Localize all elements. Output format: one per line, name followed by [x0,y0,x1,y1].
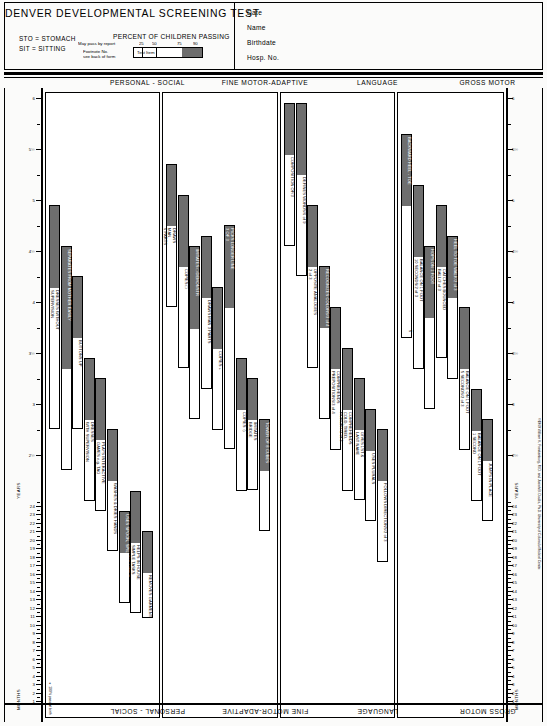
chart-item[interactable]: RECOGNIZES COLORS/3 of 4 [319,266,330,419]
axis-label-month-16: 16 [15,572,35,577]
item-bar-fill-75-90 [355,379,364,430]
axis-tick-minor [508,510,511,511]
axis-unit-months: MONTHS [16,689,21,710]
axis-label-year-3½: 3½ [512,351,532,356]
chart-item[interactable]: COMPOSITION OF/387% [284,103,295,246]
chart-item[interactable]: PLAYS INTERACTIVE GAMES e.g. TAG [95,378,106,511]
axis-label-month-13: 13 [512,597,532,602]
axis-tick-minor [37,655,40,656]
chart-item[interactable]: HELPS IN HOUSE SIMPLE TASKS [130,491,141,613]
chart-item[interactable]: HOPS ON 1 FOOT [424,246,435,409]
chart-item[interactable]: DEFINES WORDS/6 of 987% [296,103,307,276]
item-label: COPIES □ [183,269,187,288]
item-bar: BALANCE ON 1 FOOT 10 SECONDS/2 of 3 [413,185,424,369]
item-label: RECOGNIZES COLORS/3 of 4 [324,269,328,327]
header-divider-thick [4,72,543,75]
item-label: BALANCE ON 1 FOOT 5 SECONDS/2 of 3 [460,371,469,414]
chart-item[interactable]: USES SPOON, SPILLING LITTLE [119,511,130,603]
axis-label-month-20: 20 [15,538,35,543]
item-bar-fill-75-90 [414,186,423,257]
item-bar: FOLLOWS DIRECTIONS/2 of 3 [377,429,388,562]
header-right-fields: Date Name Birthdate Hosp. No. [237,3,542,69]
item-bar-fill-75-90 [460,308,469,369]
axis-tick-minor [508,621,511,622]
item-bar-fill-75-90 [483,420,492,461]
item-bar-fill-75-90 [143,532,152,573]
item-bar: COMPREHENDS COLD, TIRED, HUNGRY/2 of 3 [342,348,353,491]
axis-tick-minor [37,578,40,579]
chart-item[interactable]: WASHES & DRIES HANDS [107,429,118,551]
item-bar: COPIES □ [178,195,189,368]
chart-item[interactable]: HEEL TO TOE WALK/2 of 3 [447,236,458,379]
chart-item[interactable]: PICKS LONGER LINE 3 OF 3 [224,225,235,449]
panel-language: COMPOSITION OF/387%DEFINES WORDS/6 of 98… [280,92,395,718]
item-label: SEPARATES FROM MOTHER EASILY [66,249,70,321]
axis-tick-minor [508,561,511,562]
axis-tick [36,608,41,609]
field-hosp-no[interactable]: Hosp. No. [247,54,279,61]
chart-item[interactable]: BALANCE ON 1 FOOT 1 SECOND [471,389,482,501]
item-label: FOLLOWS DIRECTIONS/2 of 3 [382,483,386,542]
chart-item[interactable]: COMPREHENDS COLD, TIRED, HUNGRY/2 of 3 [342,348,353,491]
axis-tick-minor [508,612,511,613]
chart-item[interactable]: COPIES ◇ [236,358,247,491]
axis-label-month-12: 12 [15,606,35,611]
chart-item[interactable]: IMITATES BRIDGE [247,378,258,490]
chart-item[interactable]: FOLLOWS DIRECTIONS/2 of 3 [377,429,388,562]
chart-item[interactable]: CATCHES BOUNCED BALL/2 of 3 [436,205,447,358]
item-bar: COMPOSITION OF/3 [284,103,295,246]
axis-tick-minor [508,430,511,431]
bottom-label-gross-motor: GROSS MOTOR [400,708,547,715]
item-label: CATCHES BOUNCED BALL/2 of 3 [436,269,445,310]
axis-label-month-9: 9 [512,631,532,636]
chart-item[interactable]: GIVES 1ST & LAST NAME [354,378,365,500]
chart-item[interactable]: DRAWS MAN 3 PARTS [201,236,212,389]
axis-tick-minor [37,638,40,639]
item-bar: DRAWS MAN 6 PARTS [166,164,177,307]
abbrev-sitting: SIT = SITTING [19,45,66,52]
field-birthdate[interactable]: Birthdate [247,39,276,46]
item-bar-fill-75-90 [297,104,306,175]
field-date[interactable]: Date [247,9,262,16]
axis-label-month-10: 10 [512,623,532,628]
chart-item[interactable]: TOWER OF 8 CUBES [259,419,270,531]
axis-tick [36,404,41,405]
legend-test-item-label: Test Item [137,50,154,55]
chart-item[interactable]: REMOVES GARMENT [142,531,153,618]
field-name[interactable]: Name [247,24,266,31]
item-bar-fill-75-90 [73,277,82,338]
chart-item[interactable]: BALANCE ON 1 FOOT 10 SECONDS/2 of 3 [413,185,424,369]
chart-item[interactable]: COPIES □ [178,195,189,368]
item-bar: HELPS IN HOUSE SIMPLE TASKS [130,491,141,613]
axis-label-month-22: 22 [512,521,532,526]
axis-label-month-14: 14 [512,589,532,594]
axis-tick-minor [508,175,511,176]
chart-item[interactable]: COPIES + [212,287,223,430]
chart-item[interactable]: IMITATES □ DEMONSTR [189,246,200,419]
chart-item[interactable]: BACKWARD HEEL - TOE5 OF 5 [401,134,412,338]
item-bar-fill-75-90 [96,379,105,440]
chart-item[interactable]: OPPOSITE ANALOGIES 2 of 3 [307,205,318,368]
chart-item[interactable]: USES PLURALS [365,409,376,521]
percent-passing-title: PERCENT OF CHILDREN PASSING [113,33,230,40]
axis-label-month-11: 11 [15,614,35,619]
axis-tick-minor [508,663,511,664]
axis-unit-years: YEARS [514,482,519,499]
axis-tick-minor [508,578,511,579]
chart-item[interactable]: DRESSES WITHOUT SUPERVISION [49,205,60,429]
item-label: IMITATES □ DEMONSTR [194,249,198,296]
chart-item[interactable]: BALANCE ON 1 FOOT 5 SECONDS/2 of 3 [459,307,470,450]
axis-tick [36,591,41,592]
axis-tick-minor [37,277,40,278]
axis-tick-minor [508,544,511,545]
chart-item[interactable]: SEPARATES FROM MOTHER EASILY [61,246,72,470]
chart-item[interactable]: BUTTONS UP [72,276,83,429]
axis-tick-minor [508,519,511,520]
chart-item[interactable]: DRAWS MAN 6 PARTS [166,164,177,307]
axis-label-year-3½: 3½ [15,351,35,356]
chart-item[interactable]: DRESSES WITH SUPERVISION [84,358,95,501]
axis-tick [36,540,41,541]
axis-tick-minor [508,553,511,554]
chart-item[interactable]: JUMPS IN PLACE [482,419,493,521]
item-label: COMPREHENDS COLD, TIRED, HUNGRY/2 of 3 [338,412,351,444]
